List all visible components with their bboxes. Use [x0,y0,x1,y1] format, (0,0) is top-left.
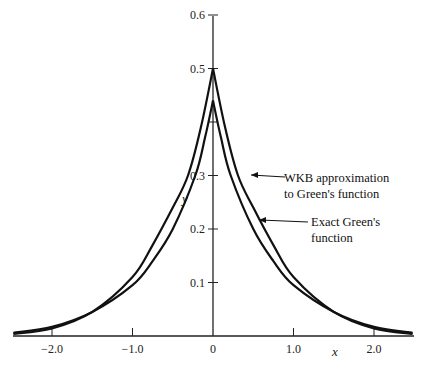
x-tick-label: −2.0 [41,342,63,356]
y-tick-label: 0.5 [190,62,205,76]
annotation-exact-line1: Exact Green's [311,215,380,229]
annotation-wkb-line1: WKB approximation [284,171,390,185]
y-axis: 0.10.20.30.50.6 y [180,8,218,336]
x-tick-label: 1.0 [286,342,301,356]
annotation-exact-line2: function [311,231,353,245]
chart: −2.0−1.001.02.0 x 0.10.20.30.50.6 y WKB … [0,0,429,368]
x-tick-label: −1.0 [122,342,144,356]
y-ticks: 0.10.20.30.50.6 [190,8,218,290]
x-tick-label: 0 [210,342,216,356]
annotation-wkb-line2: to Green's function [284,187,380,201]
x-axis-label: x [331,344,338,359]
y-tick-label: 0.2 [190,222,205,236]
x-tick-label: 2.0 [367,342,382,356]
y-tick-label: 0.1 [190,276,205,290]
arrow-head-icon [251,172,258,178]
y-tick-label: 0.6 [190,8,205,22]
annotation-exact: Exact Green's function [259,215,380,245]
x-ticks: −2.0−1.001.02.0 [41,328,381,356]
annotation-wkb: WKB approximation to Green's function [251,171,390,201]
